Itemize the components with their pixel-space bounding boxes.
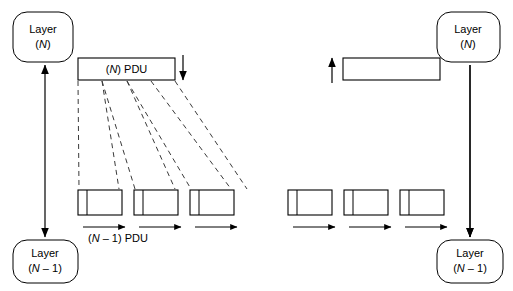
receiver-layer-n-label-line2: (N) (460, 38, 475, 50)
fragment-box (78, 190, 122, 215)
receiver-layer-n-label-line1: Layer (454, 23, 482, 35)
fragment-box (134, 190, 178, 215)
receiver-fragment-1 (288, 190, 332, 215)
fragment-box (344, 190, 388, 215)
sender-dashed-connectors (78, 81, 247, 189)
dashed-connector-6 (151, 81, 231, 189)
sender-n-pdu-label: (N) PDU (106, 63, 148, 75)
dashed-connector-3 (102, 81, 135, 189)
dashed-connector-5 (127, 81, 191, 189)
receiver-fragment-2 (344, 190, 388, 215)
fragment-box (190, 190, 234, 215)
sender-layer-n-label-line2: (N) (35, 38, 50, 50)
sender-fragment-1 (78, 190, 122, 215)
sender-layer-n-node: Layer (N) (13, 12, 73, 62)
fragment-box (288, 190, 332, 215)
receiver-layer-n-minus-1-label-line1: Layer (456, 247, 484, 259)
sender-layer-n-minus-1-label-line2: (N – 1) (28, 262, 62, 274)
sender-fragment-2 (134, 190, 178, 215)
receiver-layer-n-minus-1-node: Layer (N – 1) (437, 240, 503, 283)
fragment-box (400, 190, 444, 215)
dashed-connector-1 (78, 81, 79, 189)
pdu-segmentation-diagram: Layer (N) Layer (N – 1) (N) PDU (0, 0, 513, 291)
diagram-canvas: Layer (N) Layer (N – 1) (N) PDU (0, 0, 513, 291)
sender-n-pdu-box-group: (N) PDU (78, 58, 175, 80)
dashed-connector-7 (175, 81, 247, 189)
receiver-layer-n-node: Layer (N) (437, 12, 500, 62)
receiver-layer-n-minus-1-label-line2: (N – 1) (453, 262, 487, 274)
sender-n-minus-1-pdu-label: (N – 1) PDU (88, 232, 148, 244)
sender-layer-n-label-line1: Layer (29, 23, 57, 35)
dashed-connector-4 (127, 81, 175, 189)
sender-fragment-3 (190, 190, 234, 215)
sender-layer-n-minus-1-node: Layer (N – 1) (13, 240, 78, 283)
receiver-n-pdu-box (343, 58, 440, 80)
sender-layer-n-minus-1-label-line1: Layer (31, 247, 59, 259)
dashed-connector-2 (102, 81, 119, 189)
receiver-fragment-3 (400, 190, 444, 215)
